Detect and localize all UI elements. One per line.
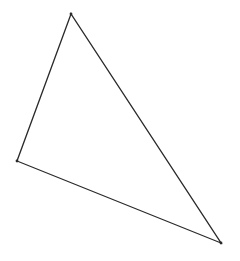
vertex-left [16,160,19,163]
triangle-shape [17,14,221,243]
vertex-top [70,13,73,16]
triangle-diagram [0,0,240,261]
vertex-bottom-right [220,242,223,245]
